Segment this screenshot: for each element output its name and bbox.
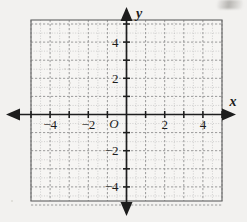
y-tick-label: 2 (112, 71, 119, 86)
y-tick-label: −4 (105, 179, 119, 194)
arrow-up-icon (121, 7, 133, 21)
x-axis-label: x (229, 94, 237, 109)
x-tick-label: −4 (43, 117, 57, 132)
paper-speck (11, 200, 13, 202)
paper-speck (69, 82, 71, 84)
arrow-right-icon (222, 109, 236, 121)
origin-label: O (109, 116, 119, 131)
coordinate-plane-svg: −4−224 42−2−4 O y x (0, 0, 247, 222)
y-axis-label: y (134, 6, 143, 21)
scan-smudge (217, 0, 243, 9)
arrow-left-icon (6, 109, 20, 121)
x-tick-label: 4 (200, 117, 207, 132)
x-tick-label: −2 (81, 117, 95, 132)
paper-speck (64, 68, 66, 70)
y-tick-label: 4 (112, 35, 119, 50)
y-tick-label: −2 (105, 143, 119, 158)
x-tick-label: 2 (161, 117, 168, 132)
coordinate-plane-figure: −4−224 42−2−4 O y x (0, 0, 247, 222)
arrow-down-icon (121, 202, 133, 216)
